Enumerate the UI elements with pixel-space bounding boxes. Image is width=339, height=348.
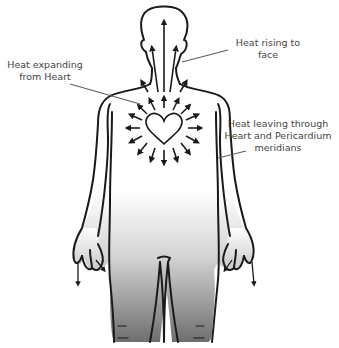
body-diagram: Heat expanding from Heart Heat rising to… xyxy=(0,0,339,348)
label-heat-leaving: Heat leaving through Heart and Pericardi… xyxy=(220,118,336,154)
label-heat-rising: Heat rising to face xyxy=(232,37,304,61)
leader-heat-rising xyxy=(182,50,228,62)
label-heat-expanding: Heat expanding from Heart xyxy=(4,59,86,83)
